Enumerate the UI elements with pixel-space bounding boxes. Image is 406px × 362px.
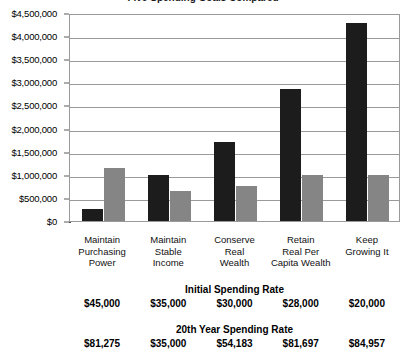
bar-group <box>202 15 268 221</box>
data-table-cell: $35,000 <box>135 337 201 350</box>
data-table-cell: $54,183 <box>201 337 267 350</box>
x-axis-category-label-line: Retain <box>268 234 334 246</box>
y-axis-tick-label: $2,000,000 <box>11 125 57 135</box>
y-axis-tick-label: $1,000,000 <box>11 171 57 181</box>
data-table-cell: $28,000 <box>268 297 334 310</box>
bar-group <box>335 15 401 221</box>
x-axis-category-label-line: Conserve <box>201 234 267 246</box>
bar <box>368 175 389 221</box>
x-axis-category-labels: MaintainPurchasingPowerMaintainStableInc… <box>69 234 400 278</box>
bar-group <box>269 15 335 221</box>
y-axis-tick-label: $1,500,000 <box>11 148 57 158</box>
y-axis-tick-label: $4,000,000 <box>11 32 57 42</box>
data-table-heading: 20th Year Spending Rate <box>69 324 400 336</box>
data-table-cell: $30,000 <box>201 297 267 310</box>
data-table-cell: $81,275 <box>69 337 135 350</box>
bar <box>104 168 125 221</box>
chart-plot-region: $4,500,000$4,000,000$3,500,000$3,000,000… <box>0 0 406 232</box>
bar <box>214 142 235 222</box>
bar <box>82 209 103 221</box>
y-axis-tick-label: $0 <box>47 217 57 227</box>
y-axis-tick-label: $500,000 <box>19 194 57 204</box>
data-table-cell: $45,000 <box>69 297 135 310</box>
x-axis-category-label: MaintainPurchasingPower <box>69 234 135 269</box>
x-axis-category-label: ConserveRealWealth <box>201 234 267 269</box>
plot-area <box>69 14 400 222</box>
data-table-row: $81,275$35,000$54,183$81,697$84,957 <box>69 337 400 351</box>
bar <box>280 89 301 221</box>
x-axis-category-label-line: Capita Wealth <box>268 257 334 269</box>
x-axis-category-label: RetainReal PerCapita Wealth <box>268 234 334 269</box>
x-axis-category-label-line: Stable <box>135 246 201 258</box>
x-axis-category-label-line: Keep <box>334 234 400 246</box>
bar-group <box>70 15 136 221</box>
y-axis-tick-label: $3,500,000 <box>11 55 57 65</box>
x-axis-category-label-line: Purchasing <box>69 246 135 258</box>
x-axis-category-label: MaintainStableIncome <box>135 234 201 269</box>
x-axis-category-label-line: Income <box>135 257 201 269</box>
x-axis-category-label-line: Wealth <box>201 257 267 269</box>
data-table-cell: $84,957 <box>334 337 400 350</box>
x-axis-category-label-line: Real Per <box>268 246 334 258</box>
x-axis-category-label-line: Growing It <box>334 246 400 258</box>
y-axis-tick-label: $3,000,000 <box>11 79 57 89</box>
data-table-heading: Initial Spending Rate <box>69 284 400 296</box>
x-axis-category-label: KeepGrowing It <box>334 234 400 257</box>
data-table-cell: $81,697 <box>268 337 334 350</box>
y-axis-tick-label: $4,500,000 <box>11 9 57 19</box>
data-table-cell: $35,000 <box>135 297 201 310</box>
bar <box>302 175 323 221</box>
bar <box>170 191 191 221</box>
x-axis-category-label-line: Maintain <box>135 234 201 246</box>
data-table-cell: $20,000 <box>334 297 400 310</box>
bar <box>346 23 367 221</box>
y-axis: $4,500,000$4,000,000$3,500,000$3,000,000… <box>0 0 64 232</box>
y-axis-tick-label: $2,500,000 <box>11 102 57 112</box>
x-axis-category-label-line: Power <box>69 257 135 269</box>
bar <box>236 186 257 221</box>
bar-group <box>136 15 202 221</box>
x-axis-category-label-line: Maintain <box>69 234 135 246</box>
bar <box>148 175 169 221</box>
data-table-row: $45,000$35,000$30,000$28,000$20,000 <box>69 297 400 311</box>
x-axis-category-label-line: Real <box>201 246 267 258</box>
